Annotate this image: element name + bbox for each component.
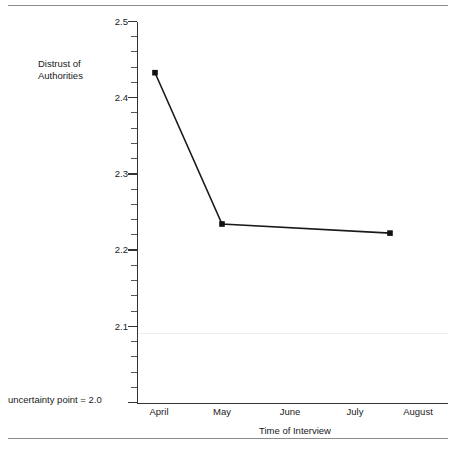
data-markers (152, 70, 393, 236)
data-point-august (387, 230, 393, 236)
figure-container: 2.5 2.4 2.3 2.2 2.1 uncertainty point = … (0, 0, 456, 452)
x-tick-label-may: May (187, 406, 257, 418)
x-tick-label-july: July (320, 406, 390, 418)
x-tick-label-june: June (255, 406, 325, 418)
y-tick-label-2-1: 2.1 (88, 321, 128, 333)
data-line-distrust (155, 73, 390, 233)
y-axis-title: Distrust of Authorities (38, 58, 134, 82)
data-point-may (219, 221, 225, 227)
y-axis-title-line-1: Distrust of (38, 58, 81, 69)
y-minor-ticks (131, 37, 137, 388)
data-point-april (152, 70, 158, 76)
x-axis-title: Time of Interview (215, 425, 375, 437)
y-tick-label-2-2: 2.2 (88, 244, 128, 256)
x-tick-label-august: August (383, 406, 453, 418)
y-tick-label-2-4: 2.4 (88, 92, 128, 104)
uncertainty-point-annotation: uncertainty point = 2.0 (8, 394, 102, 406)
y-tick-label-2-3: 2.3 (88, 168, 128, 180)
y-tick-label-2-5: 2.5 (88, 16, 128, 28)
y-axis-title-line-2: Authorities (38, 70, 83, 81)
x-tick-label-april: April (124, 406, 194, 418)
